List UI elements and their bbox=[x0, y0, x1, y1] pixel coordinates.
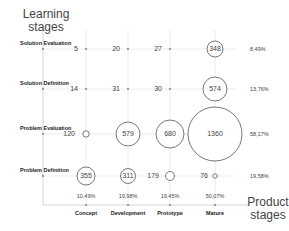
y-category-label: Solution Definition bbox=[20, 80, 69, 86]
cell-value: 76 bbox=[194, 172, 208, 179]
grid-intersection-dot bbox=[169, 88, 171, 90]
cell-value: 680 bbox=[158, 130, 182, 137]
cell-value: 120 bbox=[61, 130, 75, 137]
y-category-label: Problem Definition bbox=[20, 167, 69, 173]
grid-intersection-dot bbox=[85, 48, 87, 50]
y-axis-tick-dot bbox=[42, 48, 44, 50]
y-axis-title-line2: stages bbox=[22, 21, 70, 34]
column-total-percent: 50,07% bbox=[200, 193, 230, 199]
row-total-percent: 58,17% bbox=[250, 131, 269, 137]
cell-value: 348 bbox=[203, 45, 227, 52]
x-axis-tick-dot bbox=[214, 204, 216, 206]
column-total-percent: 10,49% bbox=[71, 193, 101, 199]
x-category-label: Prototype bbox=[150, 210, 190, 216]
cell-value: 355 bbox=[74, 172, 98, 179]
column-total-percent: 19,98% bbox=[113, 193, 143, 199]
grid-intersection-dot bbox=[127, 48, 129, 50]
x-axis-tick-dot bbox=[127, 204, 129, 206]
bubble bbox=[213, 174, 217, 178]
x-category-label: Development bbox=[108, 210, 148, 216]
x-axis-tick-dot bbox=[85, 204, 87, 206]
x-category-label: Mature bbox=[195, 210, 235, 216]
x-axis-tick-dot bbox=[169, 204, 171, 206]
y-axis-tick-dot bbox=[42, 88, 44, 90]
row-total-percent: 13,76% bbox=[250, 86, 269, 92]
bubble bbox=[166, 172, 175, 181]
cell-value: 31 bbox=[106, 85, 120, 92]
cell-value: 20 bbox=[106, 45, 120, 52]
grid-intersection-dot bbox=[169, 48, 171, 50]
y-axis-title: Learning stages bbox=[22, 8, 70, 34]
column-total-percent: 19,45% bbox=[155, 193, 185, 199]
cell-value: 27 bbox=[148, 45, 162, 52]
cell-value: 574 bbox=[203, 85, 227, 92]
row-total-percent: 19,58% bbox=[250, 173, 269, 179]
grid-intersection-dot bbox=[127, 88, 129, 90]
cell-value: 1360 bbox=[203, 130, 227, 137]
cell-value: 311 bbox=[116, 172, 140, 179]
cell-value: 579 bbox=[116, 130, 140, 137]
y-axis-tick-dot bbox=[42, 175, 44, 177]
row-total-percent: 8,49% bbox=[250, 46, 266, 52]
y-axis-tick-dot bbox=[42, 133, 44, 135]
grid-intersection-dot bbox=[85, 88, 87, 90]
bubble-chart: Learning stages Product stages Solution … bbox=[0, 0, 289, 231]
bubbles bbox=[77, 41, 242, 185]
cell-value: 179 bbox=[145, 172, 159, 179]
x-axis-title-line2: stages bbox=[246, 209, 289, 222]
cell-value: 14 bbox=[64, 85, 78, 92]
cell-value: 5 bbox=[64, 45, 78, 52]
x-axis-title: Product stages bbox=[246, 196, 289, 222]
bubble bbox=[83, 131, 89, 137]
x-category-label: Concept bbox=[66, 210, 106, 216]
cell-value: 30 bbox=[148, 85, 162, 92]
